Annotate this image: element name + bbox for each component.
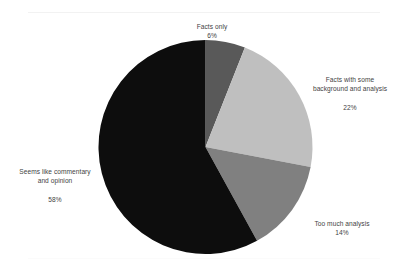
slice-label-commentary-line1: Seems like commentary bbox=[19, 168, 90, 175]
slice-label-facts-with-background-percent: 22% bbox=[300, 103, 400, 112]
slice-label-facts-with-background: Facts with some background and analysis … bbox=[300, 66, 400, 121]
slice-label-facts-only: Facts only 6% bbox=[172, 13, 252, 50]
slice-label-facts-only-percent: 6% bbox=[172, 31, 252, 40]
slice-label-facts-with-background-line1: Facts with some bbox=[326, 76, 374, 83]
slice-label-commentary-percent: 58% bbox=[6, 195, 104, 204]
slice-label-too-much-analysis-text: Too much analysis bbox=[314, 220, 369, 227]
slice-label-commentary-and-opinion: Seems like commentary and opinion 58% bbox=[6, 158, 104, 213]
slice-label-commentary-line2: and opinion bbox=[6, 176, 104, 185]
chart-canvas: Facts only 6% Facts with some background… bbox=[0, 0, 408, 267]
slice-label-too-much-analysis: Too much analysis 14% bbox=[296, 210, 388, 247]
slice-label-too-much-analysis-percent: 14% bbox=[296, 228, 388, 237]
slice-label-facts-with-background-line2: background and analysis bbox=[300, 84, 400, 93]
pie-slices bbox=[98, 40, 312, 254]
slice-label-facts-only-text: Facts only bbox=[197, 23, 228, 30]
